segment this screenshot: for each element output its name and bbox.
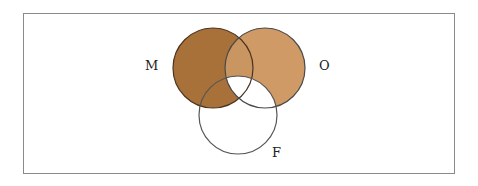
label-f: F [272,146,281,159]
label-o: O [319,59,330,72]
venn-diagram [0,0,478,186]
label-m: M [145,59,158,72]
